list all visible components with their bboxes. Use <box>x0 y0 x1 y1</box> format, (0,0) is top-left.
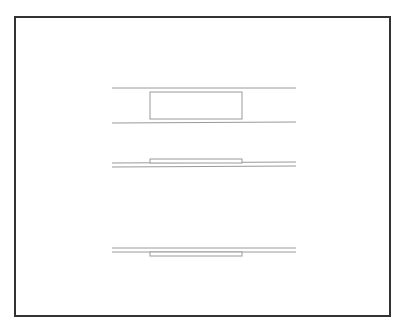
block-rect <box>150 159 242 163</box>
channel-line-2 <box>112 122 296 123</box>
narrow-channel-block-below <box>112 248 296 256</box>
wide-channel-with-block <box>112 88 296 123</box>
block-rect <box>150 92 242 119</box>
diagram-canvas <box>0 0 403 330</box>
narrow-channel-block-above <box>112 159 296 167</box>
channel-line-2 <box>112 166 296 167</box>
block-rect <box>150 252 242 256</box>
